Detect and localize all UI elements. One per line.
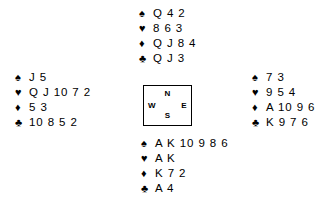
spade-icon: ♠ bbox=[15, 70, 26, 85]
hand-east-hearts: 9 5 4 bbox=[266, 85, 296, 100]
spade-icon: ♠ bbox=[252, 70, 263, 85]
hand-north-diamonds: Q J 8 4 bbox=[153, 36, 196, 51]
hand-south-diamonds-row: ♦ K 7 2 bbox=[141, 166, 228, 181]
hand-west-clubs-row: ♣ 10 8 5 2 bbox=[15, 115, 91, 130]
hand-east-clubs-row: ♣ K 9 7 6 bbox=[252, 115, 315, 130]
hand-west-diamonds-row: ♦ 5 3 bbox=[15, 100, 91, 115]
heart-icon: ♥ bbox=[141, 151, 152, 166]
hand-south-hearts: A K bbox=[155, 151, 176, 166]
heart-icon: ♥ bbox=[15, 85, 26, 100]
hand-west-diamonds: 5 3 bbox=[29, 100, 48, 115]
hand-east-diamonds: A 10 9 6 bbox=[266, 100, 315, 115]
hand-north-hearts: 8 6 3 bbox=[153, 21, 183, 36]
club-icon: ♣ bbox=[252, 115, 263, 130]
hand-west-clubs: 10 8 5 2 bbox=[29, 115, 78, 130]
hand-east-spades-row: ♠ 7 3 bbox=[252, 70, 315, 85]
hand-north: ♠ Q 4 2 ♥ 8 6 3 ♦ Q J 8 4 ♣ Q J 3 bbox=[139, 6, 196, 66]
hand-west-hearts: Q J 10 7 2 bbox=[29, 85, 91, 100]
hand-south-spades-row: ♠ A K 10 9 8 6 bbox=[141, 136, 228, 151]
compass-label-east: E bbox=[181, 102, 187, 110]
compass-label-south: S bbox=[165, 112, 171, 120]
bridge-deal-diagram: ♠ Q 4 2 ♥ 8 6 3 ♦ Q J 8 4 ♣ Q J 3 ♠ J 5 … bbox=[0, 0, 327, 211]
hand-south-diamonds: K 7 2 bbox=[155, 166, 186, 181]
club-icon: ♣ bbox=[139, 51, 150, 66]
hand-north-clubs-row: ♣ Q J 3 bbox=[139, 51, 196, 66]
hand-north-spades-row: ♠ Q 4 2 bbox=[139, 6, 196, 21]
hand-west: ♠ J 5 ♥ Q J 10 7 2 ♦ 5 3 ♣ 10 8 5 2 bbox=[15, 70, 91, 130]
diamond-icon: ♦ bbox=[252, 100, 263, 115]
diamond-icon: ♦ bbox=[141, 166, 152, 181]
club-icon: ♣ bbox=[15, 115, 26, 130]
hand-north-diamonds-row: ♦ Q J 8 4 bbox=[139, 36, 196, 51]
hand-west-hearts-row: ♥ Q J 10 7 2 bbox=[15, 85, 91, 100]
compass-label-west: W bbox=[148, 102, 156, 110]
hand-east-clubs: K 9 7 6 bbox=[266, 115, 309, 130]
hand-east-hearts-row: ♥ 9 5 4 bbox=[252, 85, 315, 100]
club-icon: ♣ bbox=[141, 181, 152, 196]
heart-icon: ♥ bbox=[252, 85, 263, 100]
hand-north-spades: Q 4 2 bbox=[153, 6, 186, 21]
hand-west-spades-row: ♠ J 5 bbox=[15, 70, 91, 85]
hand-south-clubs: A 4 bbox=[155, 181, 174, 196]
diamond-icon: ♦ bbox=[139, 36, 150, 51]
spade-icon: ♠ bbox=[141, 136, 152, 151]
hand-south-clubs-row: ♣ A 4 bbox=[141, 181, 228, 196]
compass-label-north: N bbox=[164, 90, 170, 98]
hand-east-spades: 7 3 bbox=[266, 70, 285, 85]
hand-south: ♠ A K 10 9 8 6 ♥ A K ♦ K 7 2 ♣ A 4 bbox=[141, 136, 228, 196]
hand-south-hearts-row: ♥ A K bbox=[141, 151, 228, 166]
hand-north-clubs: Q J 3 bbox=[153, 51, 185, 66]
heart-icon: ♥ bbox=[139, 21, 150, 36]
hand-south-spades: A K 10 9 8 6 bbox=[155, 136, 228, 151]
spade-icon: ♠ bbox=[139, 6, 150, 21]
hand-east-diamonds-row: ♦ A 10 9 6 bbox=[252, 100, 315, 115]
hand-east: ♠ 7 3 ♥ 9 5 4 ♦ A 10 9 6 ♣ K 9 7 6 bbox=[252, 70, 315, 130]
hand-west-spades: J 5 bbox=[29, 70, 47, 85]
hand-north-hearts-row: ♥ 8 6 3 bbox=[139, 21, 196, 36]
compass-box: N W E S bbox=[143, 85, 192, 126]
diamond-icon: ♦ bbox=[15, 100, 26, 115]
